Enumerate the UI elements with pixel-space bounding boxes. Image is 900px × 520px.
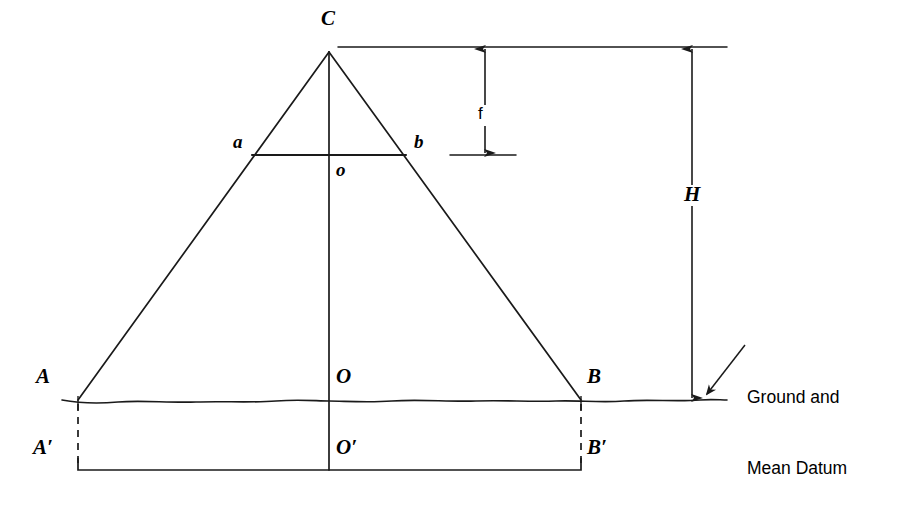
label-image-left-a: a xyxy=(233,132,243,151)
label-ground-right-B: B xyxy=(587,366,601,387)
label-ground-left-A: A xyxy=(36,366,50,387)
label-image-right-b: b xyxy=(414,132,424,151)
figure-canvas: C a b o A B O A′ B′ O′ f H Ground and Me… xyxy=(0,0,900,520)
ground-datum-note-line-2: Mean Datum xyxy=(747,457,847,481)
ground-datum-leader-line xyxy=(707,345,745,394)
label-datum-right-B-prime: B′ xyxy=(587,437,607,458)
label-focal-length-f: f xyxy=(478,105,483,122)
ground-datum-note: Ground and Mean Datum xyxy=(747,339,847,520)
label-apex-C: C xyxy=(321,8,335,29)
ray-right-CB xyxy=(329,52,581,400)
label-ground-center-O: O xyxy=(336,366,351,387)
label-flying-height-H: H xyxy=(684,184,700,205)
label-datum-left-A-prime: A′ xyxy=(33,437,53,458)
ray-left-CA xyxy=(78,52,329,400)
ground-surface-line xyxy=(62,400,727,403)
label-image-center-o: o xyxy=(336,160,346,179)
ground-datum-note-line-1: Ground and xyxy=(747,386,847,410)
label-datum-center-O-prime: O′ xyxy=(336,437,357,458)
